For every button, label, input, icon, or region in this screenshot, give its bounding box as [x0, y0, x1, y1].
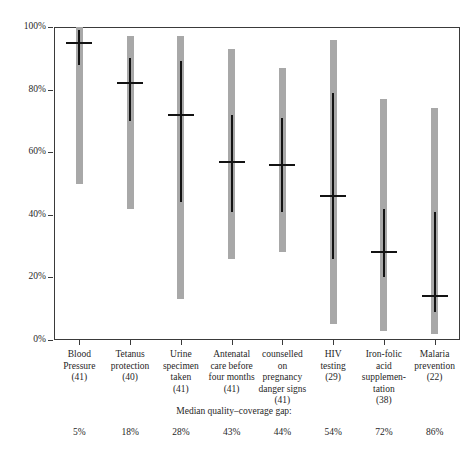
x-axis-label-line: prevention: [404, 361, 466, 373]
median-gap-values-row: 5%18%28%43%44%54%72%86%: [0, 428, 468, 442]
median-tick: [371, 251, 397, 253]
median-tick: [422, 295, 448, 297]
median-tick: [320, 195, 346, 197]
x-tick-mark: [384, 340, 385, 345]
iqr-bar: [332, 93, 334, 259]
x-tick-mark: [282, 340, 283, 345]
iqr-bar: [78, 30, 80, 64]
x-tick-mark: [232, 340, 233, 345]
y-tick-label-60: 60%: [0, 147, 46, 157]
median-tick: [168, 114, 194, 116]
median-gap-caption: Median quality–coverage gap:: [0, 406, 468, 416]
x-tick-mark: [435, 340, 436, 345]
y-tick-mark-100: [48, 27, 53, 28]
x-tick-mark: [333, 340, 334, 345]
y-tick-label-0: 0%: [0, 335, 46, 345]
x-axis-label-line: danger signs: [251, 384, 313, 396]
y-axis: 100% 80% 60% 40% 20% 0%: [0, 0, 54, 455]
median-tick: [117, 82, 143, 84]
x-tick-mark: [79, 340, 80, 345]
y-tick-label-80: 80%: [0, 85, 46, 95]
y-tick-mark-80: [48, 90, 53, 91]
y-tick-label-20: 20%: [0, 273, 46, 283]
median-tick: [219, 161, 245, 163]
y-tick-label-40: 40%: [0, 210, 46, 220]
chart-figure: 100% 80% 60% 40% 20% 0% BloodPressure(41…: [0, 0, 468, 455]
median-gap-value: 86%: [404, 428, 466, 438]
x-tick-mark: [130, 340, 131, 345]
iqr-bar: [180, 61, 182, 202]
iqr-bar: [383, 209, 385, 278]
x-axis-label-count: (22): [404, 372, 466, 384]
y-tick-mark-20: [48, 277, 53, 278]
y-tick-label-100: 100%: [0, 22, 46, 32]
median-tick: [66, 42, 92, 44]
median-tick: [269, 164, 295, 166]
x-axis-label-line: Malaria: [404, 349, 466, 361]
iqr-bar: [231, 115, 233, 212]
y-tick-mark-40: [48, 215, 53, 216]
plot-area: [54, 27, 460, 340]
x-tick-mark: [181, 340, 182, 345]
iqr-bar: [129, 58, 131, 121]
x-axis-label-line: tation: [353, 384, 415, 396]
y-tick-mark-60: [48, 152, 53, 153]
y-tick-mark-0: [48, 340, 53, 341]
x-axis-label: Malariaprevention(22): [404, 349, 466, 384]
